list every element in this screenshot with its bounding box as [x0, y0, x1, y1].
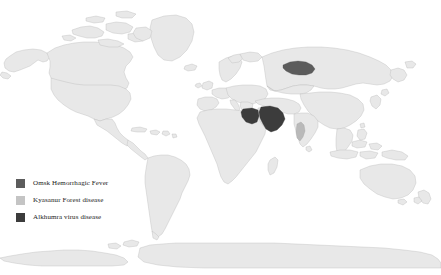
world-map	[0, 0, 441, 275]
legend-label-alkhumra: Alkhumra virus disease	[33, 213, 101, 222]
region-north-america	[0, 11, 194, 160]
region-asia	[255, 47, 416, 160]
region-south-america	[145, 155, 190, 240]
legend-swatch-alkhumra	[16, 213, 25, 222]
map-legend: Omsk Hemorrhagic Fever Kyasanur Forest d…	[16, 176, 108, 227]
world-map-figure: Omsk Hemorrhagic Fever Kyasanur Forest d…	[0, 0, 441, 275]
legend-label-kyasanur: Kyasanur Forest disease	[33, 196, 103, 205]
legend-item-alkhumra: Alkhumra virus disease	[16, 210, 108, 224]
legend-swatch-kyasanur	[16, 196, 25, 205]
region-oceania	[360, 164, 431, 205]
region-europe	[184, 52, 268, 112]
legend-item-omsk: Omsk Hemorrhagic Fever	[16, 176, 108, 190]
legend-swatch-omsk	[16, 179, 25, 188]
region-antarctica	[0, 240, 441, 268]
legend-label-omsk: Omsk Hemorrhagic Fever	[33, 179, 108, 188]
legend-item-kyasanur: Kyasanur Forest disease	[16, 193, 108, 207]
